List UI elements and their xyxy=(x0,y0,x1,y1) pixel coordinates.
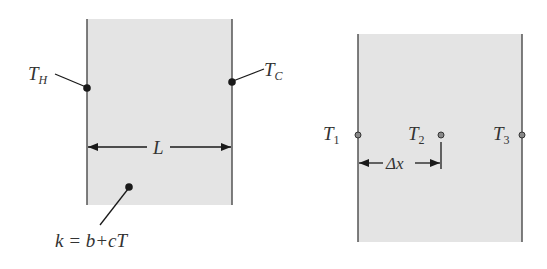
spacing-label: Δx xyxy=(386,155,404,172)
node-3-label: T3 xyxy=(493,124,510,146)
heat-conduction-diagram: TH TC L k = b+cT T1 T2 T3 Δx xyxy=(0,0,547,269)
node-2-label: T2 xyxy=(408,124,425,146)
hot-surface-dot xyxy=(83,84,91,92)
cold-leader-line xyxy=(233,69,264,81)
hot-leader-line xyxy=(55,74,86,87)
node-3-sub: 3 xyxy=(504,133,510,147)
diagram-graphics xyxy=(0,0,547,269)
node-2-dot xyxy=(438,132,444,138)
hot-temperature-label: TH xyxy=(28,64,47,86)
node-2-main: T xyxy=(408,123,419,144)
left-slab xyxy=(87,19,232,205)
conductivity-dot xyxy=(125,183,133,191)
node-1-sub: 1 xyxy=(334,133,340,147)
node-3-main: T xyxy=(493,123,504,144)
cold-label-sub: C xyxy=(275,69,283,83)
node-1-label: T1 xyxy=(323,124,340,146)
conductivity-label: k = b+cT xyxy=(55,231,127,250)
cold-label-main: T xyxy=(264,59,275,80)
cold-surface-dot xyxy=(228,78,236,86)
left-panel xyxy=(55,19,264,225)
length-label: L xyxy=(153,138,164,157)
hot-label-main: T xyxy=(28,63,39,84)
cold-temperature-label: TC xyxy=(264,60,283,82)
node-1-main: T xyxy=(323,123,334,144)
node-2-sub: 2 xyxy=(419,133,425,147)
node-1-dot xyxy=(355,132,361,138)
node-3-dot xyxy=(519,132,525,138)
hot-label-sub: H xyxy=(39,73,48,87)
